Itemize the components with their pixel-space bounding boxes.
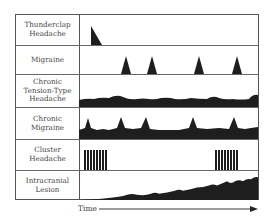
row-label: ChronicMigraine bbox=[16, 108, 80, 139]
label-line: Headache bbox=[29, 154, 66, 163]
row-thunderclap-headache: ThunderclapHeadache bbox=[16, 15, 258, 46]
chronic-migraine-plot bbox=[79, 108, 258, 139]
row-label: ClusterHeadache bbox=[16, 140, 80, 170]
right-arrow-icon bbox=[99, 205, 259, 213]
cluster-headache-plot bbox=[79, 140, 258, 170]
row-chronic-migraine: ChronicMigraine bbox=[16, 108, 258, 140]
row-cluster-headache: ClusterHeadache bbox=[16, 140, 258, 171]
row-label: Migraine bbox=[16, 46, 80, 74]
headache-pattern-table: ThunderclapHeadache Migraine ChronicTens… bbox=[15, 14, 259, 200]
row-chronic-tension-type-headache: ChronicTension-TypeHeadache bbox=[16, 75, 258, 108]
row-intracranial-lesion: IntracranialLesion bbox=[16, 171, 258, 200]
row-migraine: Migraine bbox=[16, 46, 258, 75]
time-axis-label: Time bbox=[78, 204, 97, 213]
row-label: IntracranialLesion bbox=[16, 171, 80, 200]
label-line: Migraine bbox=[31, 56, 64, 65]
thunderclap-plot bbox=[79, 15, 258, 45]
row-label: ThunderclapHeadache bbox=[16, 15, 80, 45]
label-line: Headache bbox=[29, 29, 66, 38]
migraine-plot bbox=[79, 46, 258, 74]
intracranial-lesion-plot bbox=[79, 171, 258, 200]
label-line: Lesion bbox=[36, 185, 60, 194]
row-label: ChronicTension-TypeHeadache bbox=[16, 75, 80, 107]
chronic-tension-type-plot bbox=[79, 75, 258, 107]
label-line: Headache bbox=[29, 94, 66, 103]
label-line: Migraine bbox=[31, 123, 64, 132]
